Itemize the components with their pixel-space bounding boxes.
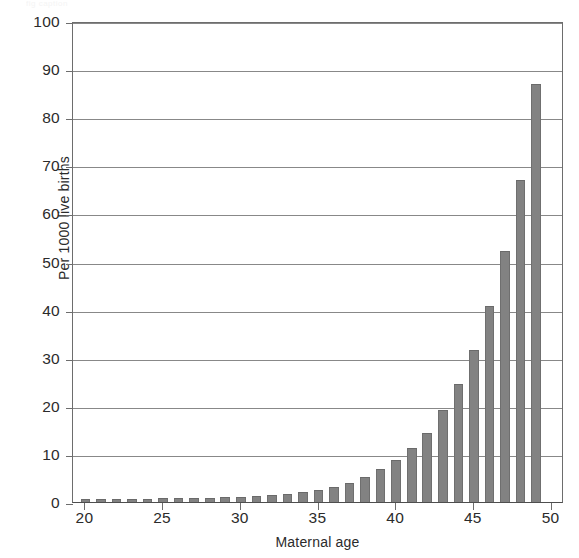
y-axis-tick-label: 30 — [42, 350, 60, 368]
bar — [283, 494, 293, 502]
bar — [236, 497, 246, 502]
bar — [516, 180, 526, 502]
bar-series — [73, 23, 562, 502]
bar — [500, 251, 510, 502]
bar — [485, 306, 495, 502]
y-axis-tick-label: 80 — [42, 109, 60, 127]
y-axis-tick — [66, 71, 73, 72]
x-axis-tick-labels: 20253035404550 — [0, 509, 579, 533]
bar — [112, 499, 122, 502]
bar — [205, 498, 215, 502]
bar — [376, 469, 386, 502]
y-axis-tick — [66, 167, 73, 168]
bar — [407, 448, 417, 502]
bar — [81, 499, 91, 502]
y-axis-tick — [66, 312, 73, 313]
bar — [298, 492, 308, 502]
bar — [174, 498, 184, 502]
y-axis-tick-label: 40 — [42, 302, 60, 320]
plot-area — [72, 22, 563, 503]
y-axis-tick — [66, 119, 73, 120]
x-axis-title: Maternal age — [72, 534, 563, 550]
bar — [391, 460, 401, 502]
y-axis-tick — [66, 215, 73, 216]
bar — [438, 410, 448, 502]
bar — [360, 477, 370, 502]
bar — [314, 490, 324, 502]
bar — [267, 495, 277, 502]
y-axis-tick-label: 90 — [42, 61, 60, 79]
bar — [96, 499, 106, 502]
x-axis-tick-label: 30 — [231, 509, 249, 527]
x-axis-tick-label: 25 — [153, 509, 171, 527]
y-axis-tick — [66, 264, 73, 265]
x-axis-tick-label: 50 — [542, 509, 560, 527]
bar — [454, 384, 464, 502]
y-axis-tick-label: 10 — [42, 446, 60, 464]
y-axis-tick-label: 20 — [42, 398, 60, 416]
y-axis-tick — [66, 408, 73, 409]
y-axis-tick — [66, 456, 73, 457]
bar — [329, 487, 339, 502]
bar — [143, 499, 153, 502]
bar — [422, 433, 432, 502]
y-axis-title: Per 1000 live births — [56, 148, 72, 288]
x-axis-tick-label: 45 — [464, 509, 482, 527]
bar — [158, 498, 168, 502]
x-axis-tick-label: 20 — [76, 509, 94, 527]
bar — [252, 496, 262, 502]
x-axis-tick-label: 35 — [309, 509, 327, 527]
bar — [469, 350, 479, 502]
bar — [220, 497, 230, 502]
y-axis-tick — [66, 23, 73, 24]
y-axis-tick-label: 100 — [33, 13, 60, 31]
bar — [189, 498, 199, 502]
x-axis-tick-label: 40 — [386, 509, 404, 527]
bar — [531, 84, 541, 502]
chart-figure: fig caption 0102030405060708090100 Per 1… — [0, 0, 579, 558]
y-axis-tick — [66, 360, 73, 361]
bar — [127, 499, 137, 502]
bar — [345, 483, 355, 502]
